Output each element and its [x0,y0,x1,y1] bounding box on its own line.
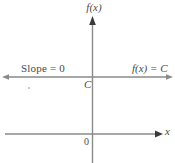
scan-artifact-speck [28,87,30,89]
function-equation-label: f(x) = C [132,63,168,74]
function-line-left-arrowhead-icon [2,74,9,80]
function-line-right-arrowhead-icon [166,74,173,80]
x-axis-arrowhead-icon [155,131,163,138]
y-axis-arrowhead-icon [89,16,96,25]
x-axis-label: x [165,126,170,137]
origin-label: 0 [84,137,89,147]
y-axis-label: f(x) [76,2,112,13]
y-intercept-label: C [84,79,91,90]
slope-annotation-label: Slope = 0 [21,63,65,74]
constant-function-figure: f(x) Slope = 0 f(x) = C C 0 x [0,0,175,163]
